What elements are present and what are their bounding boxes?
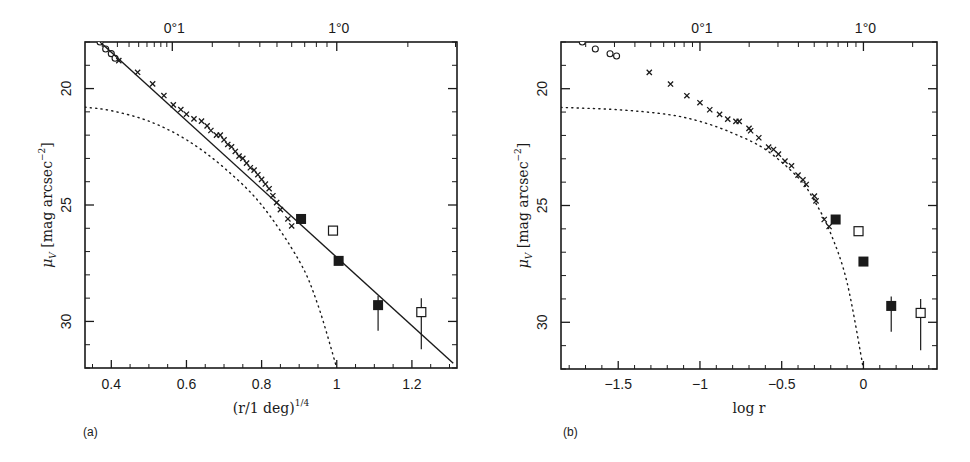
x-axis-title-text: log r: [732, 400, 765, 416]
marker-open-square: [916, 308, 925, 317]
marker-cross: [737, 119, 742, 124]
top-axis-label: 0°1: [691, 20, 712, 36]
x-tick-label: −1.5: [604, 376, 632, 392]
marker-open-square: [417, 308, 426, 317]
marker-cross: [812, 194, 817, 199]
panel-b: −1.5−1−0.500°11°0202530μV [mag arcsec−2]…: [513, 20, 937, 439]
fit-line: [100, 42, 453, 363]
top-axis-label: 1°0: [328, 20, 349, 36]
marker-cross: [647, 70, 652, 75]
marker-cross: [725, 116, 730, 121]
marker-filled-square: [373, 300, 383, 310]
x-axis-title: log r: [732, 400, 765, 416]
y-axis-title-mu: μ: [39, 259, 55, 268]
marker-cross: [697, 100, 702, 105]
marker-filled-square: [886, 301, 896, 311]
y-axis-title: μV [mag arcsec−2]: [37, 142, 58, 268]
x-axis-title-text: (r/1 deg): [233, 400, 295, 416]
marker-open-circle: [607, 51, 613, 57]
top-axis-label: 1°0: [855, 20, 876, 36]
marker-cross: [191, 116, 196, 121]
plot-frame: [561, 42, 937, 369]
marker-cross: [267, 186, 272, 191]
panel-label: (b): [563, 425, 578, 439]
panel-label: (a): [83, 425, 98, 439]
marker-filled-square: [858, 257, 868, 267]
x-tick-label: −0.5: [768, 376, 796, 392]
marker-filled-square: [831, 215, 841, 225]
marker-cross: [766, 145, 771, 150]
marker-cross: [771, 147, 776, 152]
y-axis-title-mu: μ: [515, 259, 531, 268]
top-axis-label: 0°1: [164, 20, 185, 36]
x-axis-title-sup: 1/4: [295, 398, 310, 408]
y-tick-label: 20: [58, 81, 74, 97]
y-axis-title-sup: −2: [37, 148, 47, 161]
marker-cross: [184, 112, 189, 117]
x-tick-label: −1: [692, 376, 708, 392]
marker-cross: [789, 163, 794, 168]
model-dotted-curve: [561, 107, 863, 369]
marker-cross: [208, 128, 213, 133]
data-layer: [561, 39, 925, 369]
y-tick-label: 25: [58, 197, 74, 213]
marker-open-circle: [579, 39, 585, 45]
y-tick-label: 20: [534, 81, 550, 97]
y-tick-label: 25: [534, 198, 550, 214]
marker-open-square: [329, 226, 338, 235]
y-tick-label: 30: [534, 314, 550, 330]
marker-cross: [813, 198, 818, 203]
marker-cross: [756, 135, 761, 140]
marker-cross: [748, 128, 753, 133]
marker-open-square: [854, 227, 863, 236]
marker-open-circle: [592, 46, 598, 52]
x-tick-label: 0: [860, 376, 868, 392]
marker-cross: [776, 152, 781, 157]
y-axis-title-close: ]: [39, 142, 55, 147]
marker-open-circle: [614, 53, 620, 59]
panel-a: 0.40.60.811.20°11°0202530μV [mag arcsec−…: [37, 20, 457, 439]
y-axis-title-sup: −2: [513, 148, 523, 161]
data-layer: [85, 39, 453, 368]
marker-cross: [804, 182, 809, 187]
marker-cross: [707, 107, 712, 112]
y-axis-title-close: ]: [515, 143, 531, 148]
marker-filled-square: [334, 256, 344, 266]
x-tick-label: 1: [333, 376, 341, 392]
figure: 0.40.60.811.20°11°0202530μV [mag arcsec−…: [0, 0, 970, 462]
x-tick-label: 0.4: [102, 376, 122, 392]
marker-cross: [161, 93, 166, 98]
marker-cross: [178, 107, 183, 112]
y-axis-title: μV [mag arcsec−2]: [513, 143, 534, 269]
y-tick-label: 30: [58, 313, 74, 329]
marker-cross: [717, 112, 722, 117]
marker-cross: [684, 93, 689, 98]
marker-cross: [668, 81, 673, 86]
x-tick-label: 0.6: [177, 376, 197, 392]
marker-cross: [289, 223, 294, 228]
y-axis-title-text: [mag arcsec: [515, 161, 531, 252]
x-axis-title: (r/1 deg)1/4: [233, 398, 310, 416]
plot-frame: [85, 42, 457, 368]
marker-cross: [150, 81, 155, 86]
x-tick-label: 1.2: [402, 376, 422, 392]
y-axis-title-text: [mag arcsec: [39, 161, 55, 252]
model-dotted-curve: [85, 107, 337, 368]
marker-cross: [285, 216, 290, 221]
marker-cross: [199, 119, 204, 124]
x-tick-label: 0.8: [252, 376, 272, 392]
